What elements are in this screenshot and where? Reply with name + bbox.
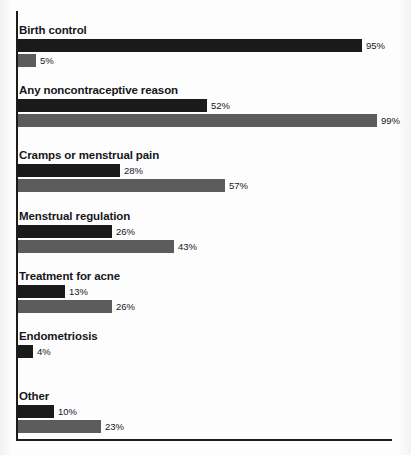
- bar-series-1: [18, 164, 120, 177]
- bar-value-label: 13%: [69, 285, 88, 298]
- horizontal-bar-chart: Birth control95%5%Any noncontraceptive r…: [0, 0, 411, 455]
- bar-series-1: [18, 225, 112, 238]
- bar-value-label: 26%: [116, 225, 135, 238]
- bar-value-label: 99%: [381, 114, 400, 127]
- bar-series-1: [18, 99, 207, 112]
- bar-group-label: Other: [19, 389, 49, 403]
- plot-area: Birth control95%5%Any noncontraceptive r…: [18, 11, 393, 439]
- bar-group-label: Any noncontraceptive reason: [19, 83, 178, 97]
- bar-series-2: [18, 420, 101, 433]
- bar-series-1: [18, 345, 33, 358]
- bar-group-label: Endometriosis: [19, 329, 98, 343]
- bar-series-2: [18, 300, 112, 313]
- x-axis-line: [16, 439, 392, 441]
- bar-value-label: 95%: [366, 39, 385, 52]
- bar-value-label: 26%: [116, 300, 135, 313]
- bar-value-label: 52%: [211, 99, 230, 112]
- bar-group-label: Menstrual regulation: [19, 209, 130, 223]
- bar-value-label: 28%: [124, 164, 143, 177]
- bar-value-label: 23%: [105, 420, 124, 433]
- bar-group-label: Birth control: [19, 23, 87, 37]
- bar-value-label: 4%: [37, 345, 51, 358]
- bar-series-1: [18, 405, 54, 418]
- bar-series-2: [18, 179, 225, 192]
- bar-value-label: 5%: [40, 54, 54, 67]
- bar-series-2: [18, 114, 377, 127]
- bar-group-label: Cramps or menstrual pain: [19, 148, 159, 162]
- bar-series-2: [18, 240, 174, 253]
- bar-series-1: [18, 39, 362, 52]
- bar-series-2: [18, 54, 36, 67]
- bar-value-label: 10%: [58, 405, 77, 418]
- bar-series-1: [18, 285, 65, 298]
- bar-value-label: 43%: [178, 240, 197, 253]
- bar-value-label: 57%: [229, 179, 248, 192]
- bar-group-label: Treatment for acne: [19, 269, 120, 283]
